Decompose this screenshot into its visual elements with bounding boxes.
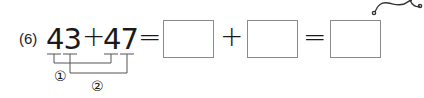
decoration-squiggle-icon — [372, 0, 421, 15]
bracket-label-1: ① — [54, 68, 67, 84]
bracket-label-2: ② — [91, 78, 104, 94]
